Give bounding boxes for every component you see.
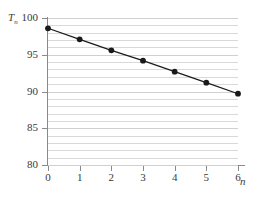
y-axis-tick — [42, 128, 47, 129]
x-axis-tick-label: 4 — [165, 172, 185, 183]
y-axis-tick — [42, 165, 47, 166]
x-axis-tick-label: 3 — [133, 172, 153, 183]
y-axis-tick-label: 90 — [8, 86, 38, 97]
chart-figure: Tn n 80859095100 0123456 — [0, 0, 263, 199]
data-point — [235, 91, 241, 97]
y-axis-tick-label: 95 — [8, 49, 38, 60]
data-point — [45, 25, 51, 31]
x-axis-tick-label: 2 — [101, 172, 121, 183]
y-axis-tick-label: 100 — [8, 12, 38, 23]
y-axis-tick — [42, 92, 47, 93]
data-point — [108, 47, 114, 53]
x-axis-tick-label: 5 — [196, 172, 216, 183]
y-axis-tick-label: 80 — [8, 159, 38, 170]
x-axis-tick-label: 1 — [70, 172, 90, 183]
data-series-line — [48, 18, 238, 165]
plot-area — [48, 18, 238, 165]
x-axis-tick-label: 0 — [38, 172, 58, 183]
series-markers — [45, 25, 241, 96]
y-axis-tick — [42, 55, 47, 56]
x-axis-tick-label: 6 — [228, 172, 248, 183]
gridline-major — [48, 165, 238, 166]
data-point — [140, 58, 146, 64]
data-point — [203, 80, 209, 86]
data-point — [77, 36, 83, 42]
y-axis-tick — [42, 18, 47, 19]
data-point — [172, 69, 178, 75]
y-axis-tick-label: 85 — [8, 122, 38, 133]
